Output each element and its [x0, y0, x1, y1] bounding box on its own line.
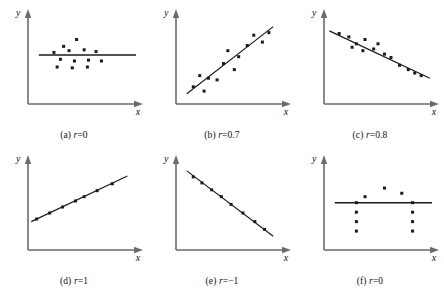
- data-point-marker: [267, 31, 270, 34]
- scatter-panel-d: yx(d) r=1: [0, 146, 148, 292]
- y-axis-label: y: [163, 153, 169, 164]
- data-point-marker: [383, 187, 386, 190]
- figure-panel-grid: yx(a) r=0yx(b) r=0.7yx(c) r=0.8yx(d) r=1…: [0, 0, 444, 292]
- scatter-plot-a: yx: [0, 0, 148, 146]
- data-point-marker: [355, 42, 358, 45]
- data-point-marker: [420, 74, 423, 77]
- panel-caption-b: (b) r=0.7: [148, 130, 296, 140]
- data-point-marker: [413, 72, 416, 75]
- y-axis-label: y: [15, 7, 21, 18]
- data-point-marker: [220, 195, 223, 198]
- data-point-marker: [347, 35, 350, 38]
- data-point-marker: [226, 49, 229, 52]
- panel-caption-r-value: =0: [77, 130, 87, 140]
- data-point-marker: [83, 48, 86, 51]
- panel-caption-a: (a) r=0: [0, 130, 148, 140]
- scatter-panel-a: yx(a) r=0: [0, 0, 148, 146]
- data-point-marker: [411, 220, 414, 223]
- data-point-marker: [95, 50, 98, 53]
- data-point-marker: [253, 220, 256, 223]
- panel-caption-label: (c): [353, 130, 364, 140]
- data-point-marker: [210, 188, 213, 191]
- data-point-marker: [355, 230, 358, 233]
- panel-caption-label: (d): [60, 276, 71, 286]
- data-point-marker: [411, 211, 414, 214]
- panel-caption-label: (b): [204, 130, 215, 140]
- data-point-marker: [61, 206, 64, 209]
- data-point-marker: [207, 77, 210, 80]
- y-axis-arrowhead-icon: [25, 9, 31, 18]
- panel-caption-r-value: =−1: [223, 276, 239, 286]
- panel-caption-r-value: =0.7: [222, 130, 240, 140]
- x-axis-label: x: [431, 106, 437, 117]
- y-axis-arrowhead-icon: [321, 155, 327, 164]
- data-point-marker: [364, 38, 367, 41]
- y-axis-label: y: [15, 153, 21, 164]
- data-point-marker: [411, 230, 414, 233]
- data-point-marker: [52, 51, 55, 54]
- y-axis-label: y: [311, 7, 317, 18]
- data-point-marker: [364, 195, 367, 198]
- y-axis-label: y: [163, 7, 169, 18]
- scatter-panel-f: yx(f) r=0: [296, 146, 444, 292]
- scatter-panel-e: yx(e) r=−1: [148, 146, 296, 292]
- panel-caption-r-value: =0: [373, 276, 383, 286]
- data-point-marker: [389, 56, 392, 59]
- x-axis-label: x: [283, 252, 289, 263]
- panel-caption-label: (e): [206, 276, 217, 286]
- data-point-marker: [233, 68, 236, 71]
- regression-line: [187, 27, 273, 94]
- data-point-marker: [241, 212, 244, 215]
- y-axis-label: y: [311, 153, 317, 164]
- data-point-marker: [246, 44, 249, 47]
- data-point-marker: [73, 60, 76, 63]
- data-point-marker: [237, 55, 240, 58]
- data-point-marker: [261, 41, 264, 44]
- panel-caption-c: (c) r=0.8: [296, 130, 444, 140]
- data-point-marker: [200, 181, 203, 184]
- panel-caption-r-value: =0.8: [370, 130, 388, 140]
- y-axis-arrowhead-icon: [25, 155, 31, 164]
- data-point-marker: [83, 195, 86, 198]
- scatter-plot-c: yx: [296, 0, 444, 146]
- data-point-marker: [263, 228, 266, 231]
- data-point-marker: [355, 220, 358, 223]
- data-point-marker: [198, 74, 201, 77]
- scatter-plot-b: yx: [148, 0, 296, 146]
- data-point-marker: [68, 49, 71, 52]
- regression-line: [329, 31, 429, 78]
- scatter-plot-d: yx: [0, 146, 148, 292]
- data-point-marker: [100, 60, 103, 63]
- scatter-panel-c: yx(c) r=0.8: [296, 0, 444, 146]
- scatter-panel-b: yx(b) r=0.7: [148, 0, 296, 146]
- panel-caption-f: (f) r=0: [296, 276, 444, 286]
- data-point-marker: [111, 182, 114, 185]
- data-point-marker: [355, 201, 358, 204]
- data-point-marker: [62, 45, 65, 48]
- data-point-marker: [87, 59, 90, 62]
- data-point-marker: [230, 203, 233, 206]
- y-axis-arrowhead-icon: [173, 9, 179, 18]
- data-point-marker: [59, 58, 62, 61]
- data-point-marker: [192, 175, 195, 178]
- data-point-marker: [203, 90, 206, 93]
- data-point-marker: [71, 66, 74, 69]
- panel-caption-label: (f): [357, 276, 367, 286]
- y-axis-arrowhead-icon: [321, 9, 327, 18]
- data-point-marker: [383, 53, 386, 56]
- data-point-marker: [361, 49, 364, 52]
- data-point-marker: [372, 47, 375, 50]
- data-point-marker: [48, 212, 51, 215]
- data-point-marker: [35, 218, 38, 221]
- data-point-marker: [377, 42, 380, 45]
- data-point-marker: [216, 78, 219, 81]
- data-point-marker: [56, 66, 59, 69]
- scatter-plot-f: yx: [296, 146, 444, 292]
- x-axis-label: x: [135, 252, 141, 263]
- panel-caption-e: (e) r=−1: [148, 276, 296, 286]
- x-axis-label: x: [431, 252, 437, 263]
- data-point-marker: [96, 189, 99, 192]
- data-point-marker: [192, 85, 195, 88]
- panel-caption-label: (a): [60, 130, 71, 140]
- data-point-marker: [74, 199, 77, 202]
